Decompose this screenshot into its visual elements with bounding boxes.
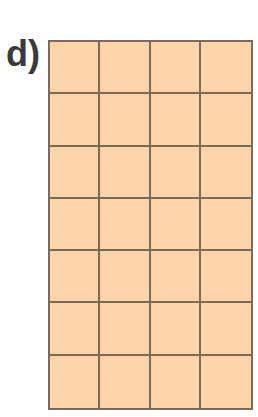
grid-cell (100, 251, 150, 303)
problem-label: d) (6, 36, 40, 72)
grid-cell (201, 251, 251, 303)
grid-cell (50, 251, 100, 303)
grid-cell (201, 356, 251, 408)
grid-cell (201, 199, 251, 251)
grid-cell (50, 199, 100, 251)
grid-cell (100, 199, 150, 251)
grid-cell (151, 147, 201, 199)
grid-cell (50, 147, 100, 199)
grid-cell (100, 42, 150, 94)
grid-cell (151, 356, 201, 408)
grid-cell (201, 303, 251, 355)
rectangle-grid (48, 40, 253, 410)
grid-cell (201, 147, 251, 199)
grid-cell (50, 94, 100, 146)
grid-cell (151, 42, 201, 94)
grid-cell (100, 94, 150, 146)
grid-cell (50, 356, 100, 408)
grid-cell (151, 94, 201, 146)
grid-cell (201, 94, 251, 146)
grid-cell (151, 251, 201, 303)
grid-cell (100, 147, 150, 199)
grid-cell (151, 199, 201, 251)
grid-cell (100, 356, 150, 408)
grid-cell (100, 303, 150, 355)
grid-cell (50, 303, 100, 355)
grid-cell (151, 303, 201, 355)
grid-cell (201, 42, 251, 94)
grid-cell (50, 42, 100, 94)
